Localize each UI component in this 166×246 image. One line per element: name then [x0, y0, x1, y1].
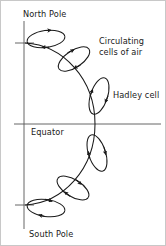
label-south-pole: South Pole	[29, 229, 73, 240]
cell-flow-arc	[26, 28, 65, 42]
label-circulating-line-2: cells of air	[99, 47, 161, 58]
cell-flow-arrow-icon	[64, 192, 70, 196]
circulation-cell	[83, 132, 111, 173]
circulation-cell	[85, 75, 113, 116]
cell-flow-arc	[26, 205, 65, 219]
cell-flow-arrow-icon	[90, 90, 93, 97]
label-circulating-cells-of-air: Circulating cells of air	[99, 36, 161, 57]
cell-flow-arc	[53, 178, 88, 204]
cell-flow-arc	[59, 49, 94, 76]
cell-flow-arrow-icon	[68, 49, 74, 53]
label-hadley-cell: Hadley cell	[113, 90, 159, 101]
cell-flow-arrow-icon	[75, 180, 81, 184]
label-north-pole: North Pole	[23, 9, 66, 20]
cell-flow-arrow-icon	[39, 215, 45, 216]
circulation-cell	[54, 42, 93, 76]
label-equator: Equator	[31, 127, 64, 138]
label-circulating-line-1: Circulating	[99, 36, 161, 47]
circulation-cell	[26, 28, 66, 50]
cell-flow-arrow-icon	[74, 64, 80, 69]
atmospheric-circulation-diagram: North Pole South Pole Equator Hadley cel…	[0, 0, 166, 246]
circulation-cell	[53, 171, 93, 204]
cell-flow-arc	[58, 171, 93, 197]
